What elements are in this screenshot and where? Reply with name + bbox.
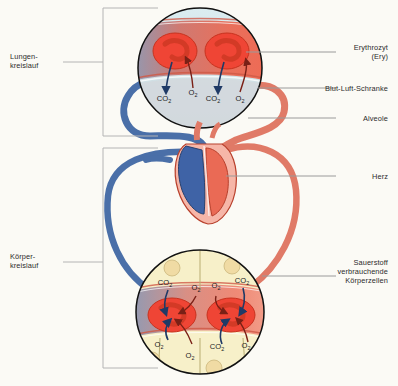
label-alveole: Alveole [278, 114, 388, 123]
label-koerperkreislauf: Körper- kreislauf [10, 252, 66, 270]
diagram-canvas: CO2 O2 CO2 O2 CO2 O2 O2 CO2 O2 O2 CO2 O2 [0, 0, 398, 386]
erythrocyte-left [153, 33, 197, 69]
label-lungenkreislauf: Lungen- kreislauf [10, 52, 66, 70]
vena-cava [146, 159, 170, 161]
erythrocyte-right [205, 33, 249, 69]
right-heart-blue [179, 146, 205, 214]
alveolus-structure [130, 0, 270, 132]
label-blut-luft-schranke: Blut-Luft-Schranke [266, 84, 388, 93]
label-koerperzellen: Sauerstoff verbrauchende Körperzellen [268, 258, 388, 286]
label-erythrozyt: Erythrozyt (Ery) [278, 43, 388, 61]
body-cells-structure [130, 248, 272, 384]
aorta-stub [197, 122, 200, 140]
erythrocyte-body-right [207, 298, 255, 332]
erythrocyte-body-left [148, 298, 196, 332]
label-herz: Herz [278, 172, 388, 181]
